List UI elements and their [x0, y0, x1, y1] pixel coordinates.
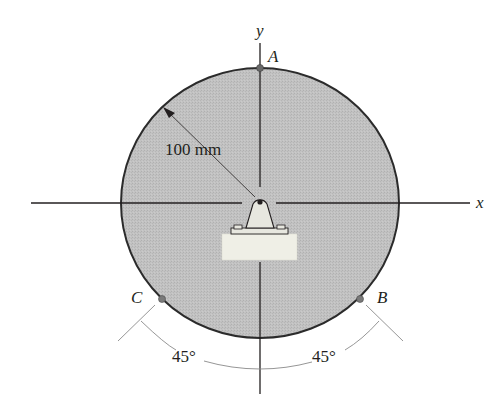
pin-icon: [257, 199, 262, 204]
angle-label-right: 45°: [312, 347, 336, 366]
point-a: [257, 65, 264, 72]
point-c: [159, 296, 166, 303]
y-axis-label: y: [254, 21, 264, 40]
angle-label-left: 45°: [172, 347, 196, 366]
point-c-label: C: [131, 288, 143, 307]
point-b: [357, 296, 364, 303]
radius-label: 100 mm: [165, 140, 221, 159]
x-axis-label: x: [475, 193, 484, 212]
disk-diagram: x y 100 mm A B C 45° 45°: [0, 0, 502, 411]
point-b-label: B: [377, 288, 388, 307]
point-a-label: A: [267, 47, 279, 66]
support-block: [222, 234, 297, 260]
